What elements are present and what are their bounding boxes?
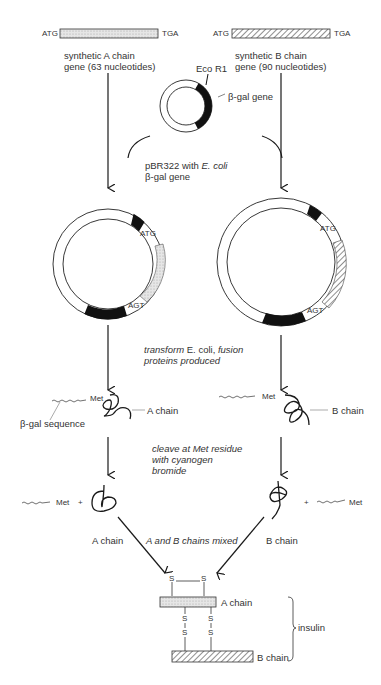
cleave-step-1: cleave at Met residue bbox=[152, 443, 242, 454]
bgal-gene-label: β-gal gene bbox=[228, 91, 273, 102]
gene-a-stop-codon: TGA bbox=[162, 28, 178, 39]
disulfide-s: S bbox=[182, 613, 187, 624]
cleaved-plus-b: + bbox=[304, 497, 309, 508]
eco-r1-label: Eco R1 bbox=[196, 63, 227, 74]
cleaved-met-a: Met bbox=[56, 497, 69, 508]
insulin-label: insulin bbox=[298, 622, 325, 633]
cleaved-a-chain: A chain bbox=[92, 535, 123, 546]
gene-b-label-2: gene (90 nucleotides) bbox=[235, 61, 326, 72]
cleaved-plus-a: + bbox=[78, 497, 83, 508]
gene-b-start-codon: ATG bbox=[213, 28, 229, 39]
cleave-step-3: bromide bbox=[152, 465, 186, 476]
mixed-step: A and B chains mixed bbox=[146, 535, 238, 546]
fusion-b-chain-label: B chain bbox=[332, 405, 364, 416]
fusion-a-chain-label: A chain bbox=[147, 405, 178, 416]
gene-b-bar bbox=[232, 29, 330, 38]
disulfide-s: S bbox=[169, 573, 174, 584]
met-b-label: Met bbox=[262, 391, 275, 402]
insulin-a-chain-bar bbox=[160, 597, 216, 607]
recombinant-plasmid-b bbox=[217, 198, 346, 326]
cleaved-b-chain: B chain bbox=[266, 535, 298, 546]
insulin-b-chain-label: B chain bbox=[257, 652, 289, 663]
gene-b-label-1: synthetic B chain bbox=[235, 50, 307, 61]
cleaved-met-b: Met bbox=[349, 497, 362, 508]
bgal-segment bbox=[195, 83, 212, 129]
gene-a-start-codon: ATG bbox=[42, 28, 58, 39]
plasmid-b-agt: AGT bbox=[307, 305, 323, 316]
plasmid-b-atg: ATG bbox=[320, 223, 336, 234]
gene-a-label-2: gene (63 nucleotides) bbox=[64, 61, 155, 72]
plasmid-a-agt: AGT bbox=[128, 300, 144, 311]
cleave-step-2: with cyanogen bbox=[152, 454, 213, 465]
gene-a-bar bbox=[60, 29, 158, 38]
plasmid-caption-1: pBR322 with E. coli bbox=[145, 160, 227, 171]
disulfide-s: S bbox=[182, 627, 187, 638]
bgal-sequence-label: β-gal sequence bbox=[20, 418, 85, 429]
transform-step-1: transform E. coli, fusion bbox=[144, 344, 243, 355]
diagram-graphics bbox=[0, 0, 381, 685]
plasmid-caption-2: β-gal gene bbox=[145, 171, 190, 182]
transform-step-2: proteins produced bbox=[144, 355, 220, 366]
gene-b-stop-codon: TGA bbox=[334, 28, 350, 39]
insulin-b-chain-bar bbox=[172, 651, 253, 662]
plasmid-a-atg: ATG bbox=[140, 228, 156, 239]
disulfide-s: S bbox=[208, 613, 213, 624]
met-a-label: Met bbox=[90, 393, 103, 404]
gene-a-label-1: synthetic A chain bbox=[64, 50, 135, 61]
insulin-a-chain-label: A chain bbox=[221, 597, 252, 608]
recombinant-plasmid-a bbox=[53, 209, 165, 319]
disulfide-s: S bbox=[201, 573, 206, 584]
disulfide-s: S bbox=[208, 627, 213, 638]
